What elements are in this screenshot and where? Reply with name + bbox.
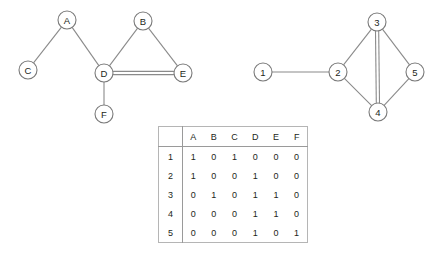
- graph-edge-B-E: [148, 28, 177, 66]
- graph-node-label-2: 2: [335, 67, 340, 78]
- matrix-cell: 0: [266, 147, 287, 167]
- matrix-body: 11010002100100301011040001105000101: [159, 147, 308, 243]
- matrix-cell: 0: [245, 147, 266, 167]
- matrix-cell: 0: [286, 204, 307, 223]
- matrix-row-header: 4: [159, 204, 183, 223]
- left-graph-nodes: ABCDEF: [19, 11, 192, 123]
- matrix-row: 2100100: [159, 166, 308, 185]
- matrix-row-header: 3: [159, 185, 183, 204]
- graph-node-label-4: 4: [375, 107, 380, 118]
- matrix-cell: 0: [224, 204, 245, 223]
- matrix-cell: 0: [266, 166, 287, 185]
- matrix-row: 5000101: [159, 223, 308, 243]
- matrix-column-header: D: [245, 127, 266, 147]
- matrix-cell: 0: [224, 166, 245, 185]
- matrix-cell: 1: [286, 223, 307, 243]
- graph-edge-4-5: [384, 79, 409, 106]
- graph-node-label-F: F: [101, 109, 107, 120]
- matrix-cell: 1: [266, 185, 287, 204]
- graph-node-label-A: A: [64, 15, 71, 26]
- matrix-header-row: ABCDEF: [159, 127, 308, 147]
- matrix-row-header: 1: [159, 147, 183, 167]
- graph-node-label-3: 3: [374, 17, 379, 28]
- matrix-row-header: 5: [159, 223, 183, 243]
- graph-edge-B-D: [109, 28, 137, 66]
- matrix-corner-cell: [159, 127, 183, 147]
- matrix-row: 1101000: [159, 147, 308, 167]
- graph-edge-3-4: [379, 31, 380, 103]
- matrix-row: 4000110: [159, 204, 308, 223]
- matrix-cell: 1: [182, 166, 203, 185]
- graph-edge-2-4: [344, 78, 371, 105]
- matrix-column-header: A: [182, 127, 203, 147]
- matrix-column-header: F: [286, 127, 307, 147]
- right-graph-nodes: 12345: [254, 13, 424, 121]
- matrix-cell: 0: [224, 185, 245, 204]
- graph-node-label-D: D: [101, 68, 108, 79]
- matrix-cell: 1: [245, 204, 266, 223]
- graph-node-label-5: 5: [412, 67, 417, 78]
- matrix-cell: 1: [245, 223, 266, 243]
- matrix-cell: 1: [224, 147, 245, 167]
- graph-node-label-E: E: [180, 68, 186, 79]
- matrix-cell: 0: [266, 223, 287, 243]
- graph-node-label-B: B: [140, 16, 146, 27]
- matrix-cell: 0: [204, 166, 225, 185]
- graph-node-label-1: 1: [260, 67, 265, 78]
- graph-edge-2-3: [344, 29, 372, 65]
- graph-edge-3-5: [382, 29, 409, 65]
- matrix-cell: 0: [286, 147, 307, 167]
- matrix-cell: 1: [204, 185, 225, 204]
- matrix-header: ABCDEF: [159, 127, 308, 147]
- matrix-cell: 1: [182, 147, 203, 167]
- matrix-cell: 0: [204, 147, 225, 167]
- matrix-cell: 0: [182, 185, 203, 204]
- matrix-column-header: B: [204, 127, 225, 147]
- matrix-cell: 0: [182, 204, 203, 223]
- matrix-cell: 1: [245, 166, 266, 185]
- graph-edge-A-D: [72, 27, 99, 65]
- matrix-column-header: E: [266, 127, 287, 147]
- matrix-row: 3010110: [159, 185, 308, 204]
- incidence-matrix-table: ABCDEF 110100021001003010110400011050001…: [158, 126, 308, 243]
- matrix-row-header: 2: [159, 166, 183, 185]
- figure-root: ABCDEF 12345 ABCDEF 11010002100100301011…: [0, 0, 442, 256]
- matrix-cell: 0: [224, 223, 245, 243]
- matrix-column-header: C: [224, 127, 245, 147]
- matrix-cell: 0: [286, 185, 307, 204]
- matrix-cell: 0: [204, 204, 225, 223]
- matrix-cell: 1: [245, 185, 266, 204]
- incidence-matrix-container: ABCDEF 110100021001003010110400011050001…: [158, 126, 308, 243]
- matrix-cell: 0: [182, 223, 203, 243]
- graph-edge-3-4: [376, 31, 377, 103]
- matrix-cell: 1: [266, 204, 287, 223]
- graph-node-label-C: C: [25, 65, 32, 76]
- matrix-cell: 0: [286, 166, 307, 185]
- matrix-cell: 0: [204, 223, 225, 243]
- graph-edge-A-C: [34, 27, 62, 63]
